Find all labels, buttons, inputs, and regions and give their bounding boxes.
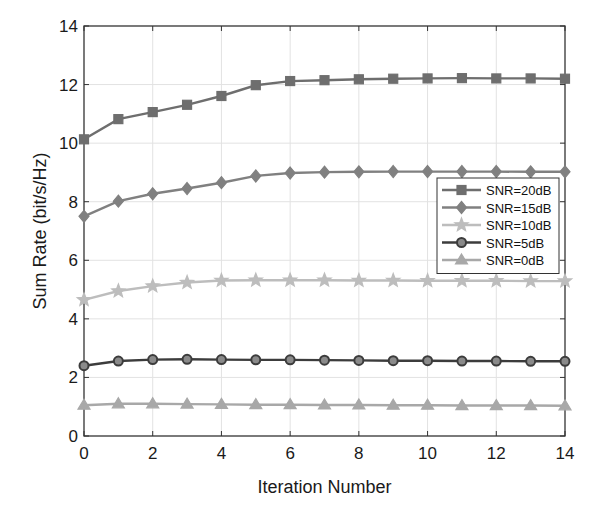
- square-marker-icon: [286, 77, 295, 86]
- x-tick-label: 0: [79, 444, 88, 463]
- square-marker-icon: [217, 91, 226, 100]
- legend-label: SNR=20dB: [486, 183, 551, 198]
- circle-marker-icon: [251, 355, 260, 364]
- legend-label: SNR=10dB: [486, 218, 551, 233]
- y-tick-label: 12: [59, 76, 78, 95]
- legend: SNR=20dBSNR=15dBSNR=10dBSNR=5dBSNR=0dB: [437, 178, 559, 274]
- square-marker-icon: [389, 74, 398, 83]
- x-tick-label: 14: [556, 444, 575, 463]
- circle-marker-icon: [80, 361, 89, 370]
- circle-marker-icon: [148, 355, 157, 364]
- square-marker-icon: [320, 76, 329, 85]
- square-marker-icon: [251, 81, 260, 90]
- square-marker-icon: [457, 74, 466, 83]
- legend-label: SNR=15dB: [486, 201, 551, 216]
- x-axis-label: Iteration Number: [257, 477, 391, 497]
- y-tick-label: 10: [59, 134, 78, 153]
- square-marker-icon: [148, 108, 157, 117]
- x-tick-label: 12: [487, 444, 506, 463]
- circle-marker-icon: [423, 356, 432, 365]
- square-marker-icon: [183, 100, 192, 109]
- circle-marker-icon: [492, 357, 501, 366]
- square-marker-icon: [423, 74, 432, 83]
- circle-marker-icon: [526, 357, 535, 366]
- square-marker-icon: [526, 74, 535, 83]
- x-tick-label: 4: [217, 444, 226, 463]
- square-legend-icon: [457, 186, 466, 195]
- x-tick-label: 10: [418, 444, 437, 463]
- circle-marker-icon: [183, 355, 192, 364]
- y-tick-label: 0: [69, 427, 78, 446]
- circle-marker-icon: [354, 356, 363, 365]
- x-tick-label: 2: [148, 444, 157, 463]
- y-tick-label: 8: [69, 193, 78, 212]
- y-tick-label: 4: [69, 310, 78, 329]
- circle-marker-icon: [457, 357, 466, 366]
- y-axis-label: Sum Rate (bit/s/Hz): [30, 152, 50, 309]
- circle-marker-icon: [286, 355, 295, 364]
- legend-label: SNR=5dB: [486, 236, 544, 251]
- circle-marker-icon: [114, 357, 123, 366]
- y-tick-label: 2: [69, 368, 78, 387]
- y-tick-label: 6: [69, 251, 78, 270]
- circle-marker-icon: [320, 356, 329, 365]
- x-tick-label: 6: [285, 444, 294, 463]
- chart: 0246810121402468101214 Iteration Number …: [0, 0, 599, 512]
- y-tick-label: 14: [59, 17, 78, 36]
- circle-marker-icon: [389, 356, 398, 365]
- circle-marker-icon: [217, 355, 226, 364]
- square-marker-icon: [492, 74, 501, 83]
- legend-label: SNR=0dB: [486, 253, 544, 268]
- square-marker-icon: [354, 75, 363, 84]
- square-marker-icon: [80, 135, 89, 144]
- circle-marker-icon: [561, 357, 570, 366]
- circle-legend-icon: [457, 238, 466, 247]
- square-marker-icon: [561, 74, 570, 83]
- x-tick-label: 8: [354, 444, 363, 463]
- square-marker-icon: [114, 115, 123, 124]
